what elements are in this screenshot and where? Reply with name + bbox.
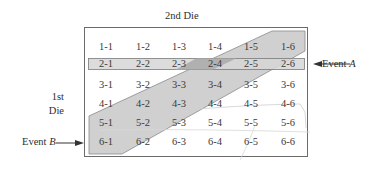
outcome-cell: 4-6: [281, 99, 295, 110]
diagram-canvas: [0, 0, 388, 171]
outcome-cell: 6-5: [244, 137, 258, 148]
outcome-cell: 5-4: [208, 118, 222, 129]
outcome-cell: 4-4: [208, 99, 222, 110]
outcome-cell: 6-3: [172, 137, 186, 148]
event-b-name: B: [49, 136, 55, 147]
outcome-cell: 4-5: [244, 99, 258, 110]
outcome-cell: 4-2: [136, 99, 150, 110]
event-b-arrowhead: [75, 140, 84, 146]
event-b-prefix: Event: [22, 136, 49, 147]
outcome-cell: 2-3: [172, 59, 186, 70]
outcome-cell: 1-1: [99, 42, 113, 53]
outcome-cell: 1-4: [208, 42, 222, 53]
outcome-cell: 5-2: [136, 118, 150, 129]
outcome-cell: 1-3: [172, 42, 186, 53]
column-axis-title: 2nd Die: [165, 11, 199, 22]
event-a-prefix: Event: [322, 58, 349, 69]
event-a-arrowhead: [313, 61, 322, 67]
outcome-cell: 3-4: [208, 80, 222, 91]
outcome-cell: 5-3: [172, 118, 186, 129]
outcome-cell: 3-6: [281, 80, 295, 91]
outcome-cell: 6-4: [208, 137, 222, 148]
outcome-cell: 4-3: [172, 99, 186, 110]
outcome-cell: 6-1: [99, 137, 113, 148]
event-b-label: Event B: [22, 137, 56, 148]
outcome-cell: 2-5: [244, 59, 258, 70]
row-axis-title-line2: Die: [38, 106, 64, 117]
outcome-cell: 3-5: [244, 80, 258, 91]
outcome-cell: 6-2: [136, 137, 150, 148]
outcome-cell: 2-6: [281, 59, 295, 70]
row-axis-title: 1st Die: [38, 92, 64, 116]
outcome-cell: 4-1: [99, 99, 113, 110]
outcome-cell: 6-6: [281, 137, 295, 148]
row-axis-title-line1: 1st: [38, 92, 64, 103]
outcome-cell: 2-1: [99, 59, 113, 70]
outcome-cell: 5-5: [244, 118, 258, 129]
outcome-cell: 1-2: [136, 42, 150, 53]
outcome-cell: 3-1: [99, 80, 113, 91]
outcome-cell: 3-2: [136, 80, 150, 91]
outcome-cell: 2-2: [136, 59, 150, 70]
outcome-cell: 1-5: [244, 42, 258, 53]
outcome-cell: 5-1: [99, 118, 113, 129]
outcome-cell: 3-3: [172, 80, 186, 91]
outcome-cell: 2-4: [208, 59, 222, 70]
event-a-name: A: [349, 58, 355, 69]
event-a-label: Event A: [322, 59, 356, 70]
outcome-cell: 1-6: [281, 42, 295, 53]
outcome-cell: 5-6: [281, 118, 295, 129]
